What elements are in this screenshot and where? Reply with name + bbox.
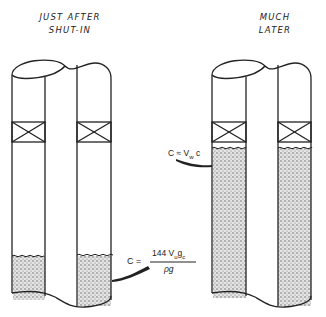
right-leader-line (176, 159, 212, 167)
right-annulus-fluid-right (278, 148, 311, 306)
left-eq-lhs: C = (127, 256, 141, 266)
left-equation: C = (127, 256, 141, 266)
left-annulus-fluid-left (13, 256, 45, 300)
left-panel-title: JUST AFTER SHUT-IN (25, 11, 115, 37)
right-title-line1: MUCH (240, 11, 310, 24)
left-title-line2: SHUT-IN (25, 24, 115, 37)
left-title-line1: JUST AFTER (25, 11, 115, 24)
right-title-line2: LATER (240, 24, 310, 37)
left-annulus-fluid-right (78, 256, 111, 306)
left-eq-denominator: ρg (164, 264, 174, 274)
right-annulus-fluid-left (213, 148, 246, 298)
right-wellbore (212, 60, 312, 307)
left-leader-line (112, 266, 150, 282)
left-eq-numerator: 144 Vugc (152, 248, 185, 260)
right-panel-title: MUCH LATER (240, 11, 310, 37)
left-wellbore (12, 60, 113, 307)
right-equation: C ≈ Vw c (168, 148, 200, 160)
wellbore-diagram (0, 0, 326, 317)
